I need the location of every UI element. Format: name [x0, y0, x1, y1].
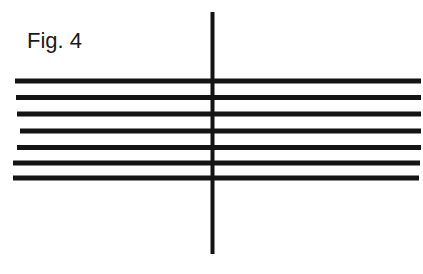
line-diagram: [0, 0, 423, 274]
